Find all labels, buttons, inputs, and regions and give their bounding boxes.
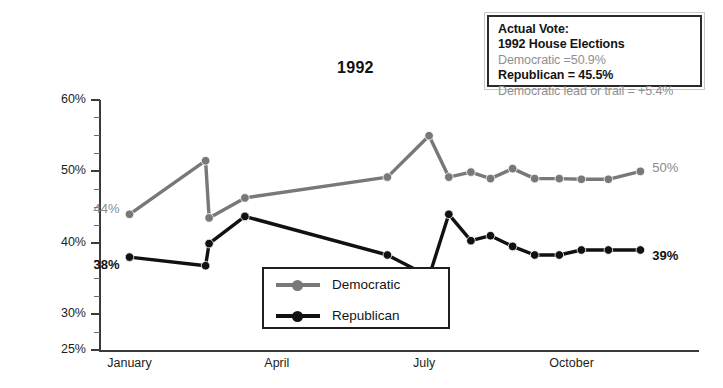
legend-label-republican: Republican — [332, 308, 400, 323]
data-point-democratic — [486, 174, 495, 183]
data-point-democratic — [241, 194, 250, 203]
chart-canvas: Actual Vote: 1992 House Elections Democr… — [0, 0, 723, 388]
data-point-republican — [636, 246, 645, 255]
data-point-republican — [241, 212, 250, 221]
data-point-republican — [604, 246, 613, 255]
chart-legend: Democratic Republican — [262, 267, 450, 329]
legend-label-democratic: Democratic — [332, 277, 400, 292]
data-point-republican — [508, 242, 517, 251]
legend-item-democratic: Democratic — [264, 269, 448, 300]
data-point-republican — [555, 251, 564, 260]
legend-swatch-democratic-icon — [276, 279, 320, 291]
annotation-republican-start: 38% — [93, 257, 119, 272]
data-point-democratic — [383, 173, 392, 182]
data-point-republican — [201, 261, 210, 270]
data-point-democratic — [201, 156, 210, 165]
annotation-republican-end: 39% — [652, 248, 678, 263]
data-point-republican — [577, 246, 586, 255]
data-point-democratic — [205, 214, 214, 223]
data-point-democratic — [577, 175, 586, 184]
data-point-democratic — [445, 173, 454, 182]
data-point-republican — [205, 239, 214, 248]
annotation-democratic-start: 44% — [93, 201, 119, 216]
data-point-democratic — [530, 174, 539, 183]
annotation-democratic-end: 50% — [652, 160, 678, 175]
legend-swatch-republican-icon — [276, 310, 320, 322]
data-point-republican — [467, 236, 476, 245]
data-point-democratic — [467, 168, 476, 177]
data-point-democratic — [508, 164, 517, 173]
data-point-democratic — [604, 175, 613, 184]
data-point-republican — [125, 253, 134, 262]
data-point-democratic — [555, 174, 564, 183]
data-point-republican — [486, 231, 495, 240]
data-point-republican — [530, 251, 539, 260]
data-point-republican — [383, 251, 392, 260]
legend-item-republican: Republican — [264, 300, 448, 331]
data-point-democratic — [425, 131, 434, 140]
data-point-democratic — [125, 210, 134, 219]
data-point-republican — [445, 210, 454, 219]
data-point-democratic — [636, 167, 645, 176]
